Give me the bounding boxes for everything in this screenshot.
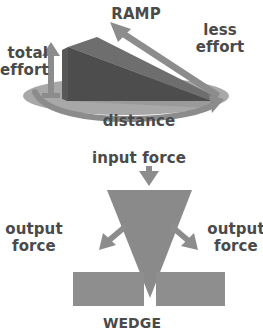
total-effort-label: total effort xyxy=(0,45,48,79)
split-block-right xyxy=(156,272,225,306)
ramp-title: RAMP xyxy=(97,6,175,23)
wedge-illustration xyxy=(73,166,225,306)
ramp-back-face xyxy=(62,47,68,101)
output-force-right-label: output force xyxy=(205,221,263,255)
diagram-canvas: RAMP less effort total effort distance i… xyxy=(0,0,263,334)
distance-label: distance xyxy=(96,113,182,130)
output-force-left-label: output force xyxy=(3,221,65,255)
input-force-label: input force xyxy=(84,150,194,167)
wedge-title: WEDGE xyxy=(94,316,170,332)
less-effort-label: less effort xyxy=(183,22,257,56)
output-force-arrow-left xyxy=(99,223,128,250)
input-force-arrow xyxy=(139,166,159,186)
split-block-left xyxy=(73,272,144,306)
